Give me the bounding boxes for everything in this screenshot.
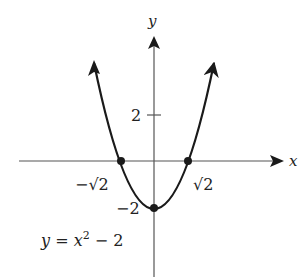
equation-x: x (74, 231, 83, 250)
y-tick-label-2: 2 (131, 106, 141, 125)
equation-eq: = (50, 231, 74, 250)
vertex-label: −2 (116, 199, 140, 218)
equation-label: y = x2 − 2 (40, 229, 123, 250)
parabola-graph: x y 2 −√2 √2 −2 y = x2 − 2 (0, 0, 303, 277)
right-root-label: √2 (193, 175, 213, 194)
vertex-point (150, 204, 158, 212)
y-axis-label: y (147, 12, 157, 30)
right-root-point (184, 157, 192, 165)
parabola-left-arrow-icon (88, 60, 100, 76)
equation-rest: − 2 (90, 231, 124, 250)
left-root-label: −√2 (75, 175, 109, 194)
equation-exp: 2 (83, 229, 90, 242)
x-axis-label: x (289, 152, 298, 170)
left-root-point (117, 157, 125, 165)
